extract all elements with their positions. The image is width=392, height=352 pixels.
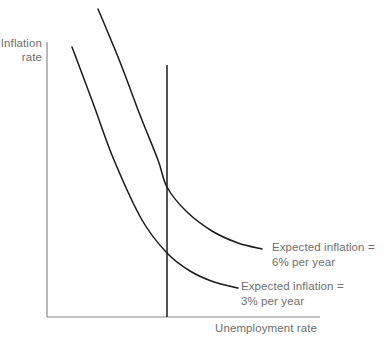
- phillips-curve-high-expected-inflation: [98, 9, 262, 249]
- curve-label-high-expected-inflation: Expected inflation = 6% per year: [272, 240, 375, 269]
- curve-label-low-expected-inflation: Expected inflation = 3% per year: [241, 279, 344, 308]
- phillips-curve-figure: Inflation rate Expected inflation = 6% p…: [0, 0, 392, 352]
- curve-label-low-line2: 3% per year: [241, 294, 344, 309]
- curve-label-high-line1: Expected inflation =: [272, 240, 375, 255]
- x-axis-label: Unemployment rate: [215, 321, 317, 335]
- curve-label-high-line2: 6% per year: [272, 255, 375, 270]
- phillips-curve-low-expected-inflation: [72, 47, 238, 288]
- curve-label-low-line1: Expected inflation =: [241, 279, 344, 294]
